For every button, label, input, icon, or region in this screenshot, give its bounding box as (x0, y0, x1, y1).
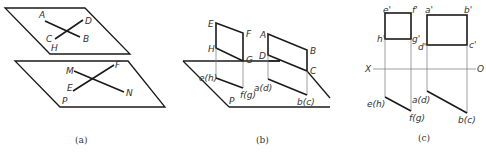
line-fe (73, 65, 114, 91)
rect-efgh (216, 23, 243, 61)
label-fg: f(g) (409, 113, 425, 123)
projection-ehfg (216, 78, 243, 88)
figure-a: A D C B H M F E N P (a) (5, 8, 165, 145)
rect-abcd (268, 34, 307, 71)
label-a-prime: a' (425, 5, 433, 15)
label-C: C (310, 66, 317, 76)
label-M: M (66, 66, 74, 76)
label-F: F (115, 60, 121, 70)
label-A: A (259, 30, 266, 40)
projection-diagram: A D C B H M F E N P (a) E F G H e(h) f(g… (0, 0, 486, 157)
projection-ad-bc (427, 91, 467, 113)
plane-left-edge (183, 61, 229, 107)
label-eh: e(h) (199, 73, 217, 83)
label-ad: a(d) (254, 83, 272, 93)
label-P: P (62, 96, 68, 106)
label-d-prime: d' (418, 42, 426, 52)
label-f-prime: f' (412, 5, 418, 15)
figure-c: X O e' f' g' h' a' b' c' d' e(h) f(g) a(… (364, 5, 484, 143)
label-E: E (67, 83, 73, 93)
caption-a: (a) (75, 135, 87, 145)
label-h-prime: h' (377, 34, 385, 44)
label-O: O (477, 64, 484, 74)
label-H: H (208, 44, 215, 54)
label-bc: b(c) (297, 97, 315, 107)
label-D: D (85, 16, 92, 26)
label-eh: e(h) (367, 99, 385, 109)
label-c-prime: c' (469, 40, 476, 50)
label-F: F (246, 29, 252, 39)
caption-b: (b) (256, 135, 269, 145)
projection-eh-fg (385, 97, 411, 111)
label-b-prime: b' (464, 5, 472, 15)
caption-c: (c) (418, 133, 430, 143)
lower-plane-p (15, 61, 165, 107)
rect-abcd (427, 15, 467, 45)
projection-adbc (268, 79, 307, 95)
label-B: B (310, 46, 316, 56)
square-efgh (385, 13, 411, 39)
label-H: H (51, 43, 58, 53)
label-ad: a(d) (412, 95, 430, 105)
label-N: N (126, 88, 133, 98)
label-G: G (246, 55, 253, 65)
figure-b: E F G H e(h) f(g) A B C D a(d) b(c) P (b… (183, 19, 330, 145)
label-e-prime: e' (383, 5, 391, 15)
label-P: P (229, 96, 235, 106)
label-B: B (83, 34, 89, 44)
label-E: E (208, 19, 214, 29)
label-bc: b(c) (458, 115, 476, 125)
label-X: X (364, 64, 372, 74)
label-A: A (38, 10, 45, 20)
label-D: D (259, 51, 266, 61)
